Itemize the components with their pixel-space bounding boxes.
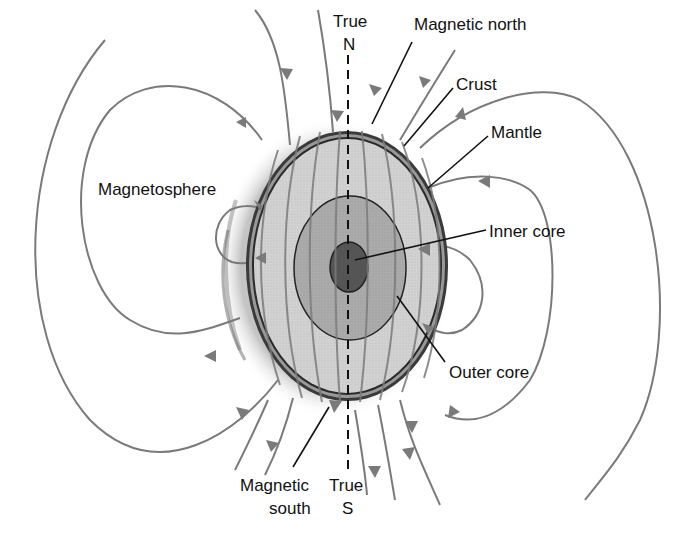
label-magnetic-south-line2: south	[269, 499, 311, 518]
label-mantle: Mantle	[491, 123, 542, 142]
label-outer-core: Outer core	[449, 363, 529, 382]
label-true-north-line2: N	[343, 35, 355, 54]
label-magnetosphere: Magnetosphere	[98, 180, 216, 199]
label-magnetic-south-line1: Magnetic	[240, 476, 309, 495]
label-true-south-line1: True	[329, 476, 363, 495]
label-crust: Crust	[456, 75, 497, 94]
label-inner-core: Inner core	[489, 222, 566, 241]
label-true-south-line2: S	[342, 499, 353, 518]
label-magnetic-north: Magnetic north	[414, 15, 526, 34]
label-true-north-line1: True	[333, 12, 367, 31]
earth-magnetic-field-diagram: True N Magnetic north Crust Mantle Magne…	[0, 0, 700, 553]
